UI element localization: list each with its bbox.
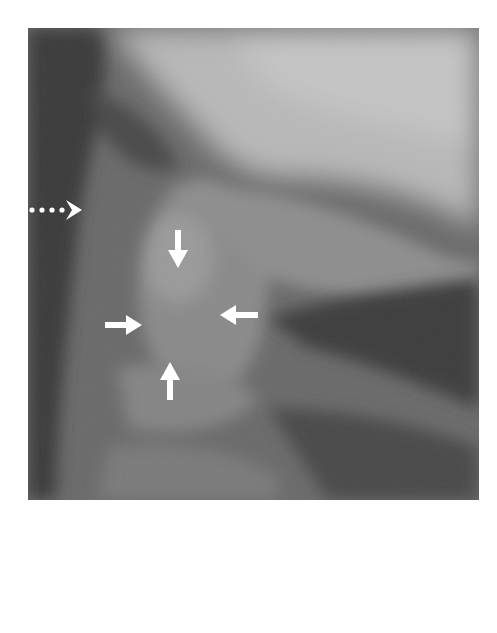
xray-rendering: [28, 28, 479, 500]
xray-image: [28, 28, 479, 500]
